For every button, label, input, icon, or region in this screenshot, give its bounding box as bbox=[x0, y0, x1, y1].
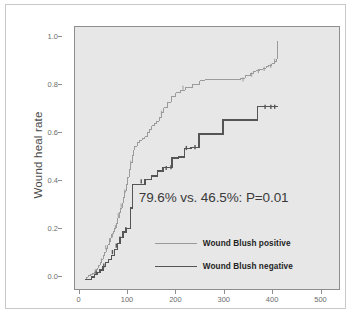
x-tick-mark bbox=[224, 290, 225, 294]
y-tick-label: 0.4 bbox=[18, 176, 58, 185]
y-tick-mark bbox=[58, 276, 62, 277]
y-tick-mark bbox=[58, 180, 62, 181]
y-tick-mark bbox=[58, 228, 62, 229]
x-tick-mark bbox=[79, 290, 80, 294]
x-tick-label: 500 bbox=[301, 295, 341, 304]
annotation-statistics: 79.6% vs. 46.5%: P=0.01 bbox=[139, 190, 289, 205]
legend-item-0[interactable]: Wound Blush positive bbox=[155, 239, 291, 248]
x-tick-label: 300 bbox=[204, 295, 244, 304]
x-tick-label: 400 bbox=[252, 295, 292, 304]
legend-swatch-line-icon bbox=[155, 243, 197, 244]
x-tick-label: 100 bbox=[107, 295, 147, 304]
y-axis-title: Wound heal rate bbox=[32, 75, 44, 235]
legend-label: Wound Blush negative bbox=[203, 262, 293, 271]
y-tick-mark bbox=[58, 84, 62, 85]
y-tick-mark bbox=[58, 132, 62, 133]
x-tick-label: 0 bbox=[59, 295, 99, 304]
figure-root: Wound heal rate 79.6% vs. 46.5%: P=0.01 … bbox=[0, 0, 351, 316]
y-tick-label: 0.0 bbox=[18, 272, 58, 281]
plot-panel: 79.6% vs. 46.5%: P=0.01 Wound Blush posi… bbox=[74, 26, 340, 290]
y-tick-label: 1.0 bbox=[18, 32, 58, 41]
figure-frame: Wound heal rate 79.6% vs. 46.5%: P=0.01 … bbox=[5, 4, 346, 309]
y-tick-mark bbox=[58, 36, 62, 37]
y-tick-label: 0.8 bbox=[18, 80, 58, 89]
legend-swatch-line-icon bbox=[155, 266, 197, 267]
plot-svg bbox=[75, 27, 339, 289]
legend-item-1[interactable]: Wound Blush negative bbox=[155, 262, 293, 271]
y-tick-label: 0.6 bbox=[18, 128, 58, 137]
x-tick-mark bbox=[127, 290, 128, 294]
x-tick-mark bbox=[272, 290, 273, 294]
x-tick-mark bbox=[175, 290, 176, 294]
y-tick-label: 0.2 bbox=[18, 224, 58, 233]
legend-label: Wound Blush positive bbox=[203, 239, 291, 248]
x-tick-mark bbox=[321, 290, 322, 294]
x-tick-label: 200 bbox=[155, 295, 195, 304]
